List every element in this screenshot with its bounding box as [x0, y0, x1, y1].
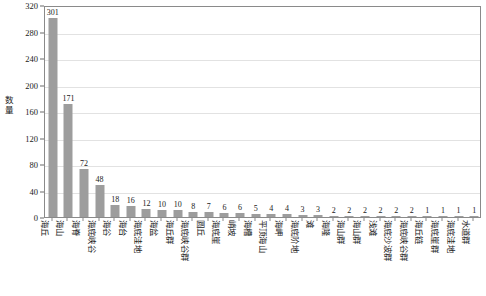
x-tick-mark: [441, 218, 442, 221]
x-tick-mark: [473, 218, 474, 221]
x-tick-label: 海底洼地: [133, 220, 142, 253]
x-tick-label: 平顶海山: [258, 220, 267, 253]
bar-value-label: 171: [62, 94, 74, 103]
x-tick-mark: [145, 218, 146, 221]
x-tick-mark: [114, 218, 115, 221]
bar-value-label: 2: [410, 206, 414, 215]
bar[interactable]: [470, 216, 479, 217]
bar-slot: 7: [201, 7, 217, 217]
y-tick-label: 40: [30, 187, 39, 197]
bar-slot: 2: [326, 7, 342, 217]
bar-slot: 10: [154, 7, 170, 217]
plot-area: 301171724818161210108766544332222221111: [44, 6, 481, 218]
bar-value-label: 12: [142, 199, 150, 208]
y-tick-label: 0: [34, 213, 38, 223]
x-tick-label: 海隆: [320, 220, 329, 236]
x-tick-mark: [192, 218, 193, 221]
bar-slot: 3: [295, 7, 311, 217]
bar[interactable]: [376, 216, 385, 217]
bar-slot: 48: [92, 7, 108, 217]
y-tick-label: 240: [25, 54, 38, 64]
bar[interactable]: [158, 210, 167, 217]
bar-value-label: 10: [158, 200, 166, 209]
bar-value-label: 3: [316, 205, 320, 214]
bar[interactable]: [204, 212, 213, 217]
y-tick-label: 320: [25, 1, 38, 11]
bar-value-label: 3: [301, 205, 305, 214]
bar-value-label: 1: [441, 206, 445, 215]
x-tick-label: 海岬: [273, 220, 282, 236]
x-tick-mark: [426, 218, 427, 221]
bar[interactable]: [407, 216, 416, 217]
y-tick-label: 80: [30, 160, 39, 170]
bar[interactable]: [329, 216, 338, 217]
bar[interactable]: [142, 209, 151, 217]
bar[interactable]: [236, 213, 245, 217]
x-tick-mark: [129, 218, 130, 221]
bar[interactable]: [314, 215, 323, 217]
bar-slot: 1: [435, 7, 451, 217]
x-tick-label: 峭坡: [226, 220, 235, 236]
bar-slot: 4: [264, 7, 280, 217]
x-tick-label: 海山群: [351, 220, 360, 245]
x-tick-mark: [83, 218, 84, 221]
bar[interactable]: [95, 185, 104, 217]
bar[interactable]: [64, 104, 73, 217]
bar-slot: 2: [342, 7, 358, 217]
bar[interactable]: [111, 205, 120, 217]
bar[interactable]: [251, 214, 260, 217]
bar-value-label: 7: [207, 202, 211, 211]
x-tick-label: 海槽: [242, 220, 251, 236]
bar[interactable]: [173, 210, 182, 217]
x-tick-mark: [395, 218, 396, 221]
x-tick-label: 滩: [304, 220, 313, 228]
bar[interactable]: [360, 216, 369, 217]
bar-value-label: 2: [363, 206, 367, 215]
bar-value-label: 6: [222, 203, 226, 212]
bar[interactable]: [282, 214, 291, 217]
bar[interactable]: [345, 216, 354, 217]
x-label-slot: 海底阶地: [294, 220, 310, 294]
x-tick-mark: [254, 218, 255, 221]
y-tick-label: 280: [25, 28, 38, 38]
x-tick-mark: [176, 218, 177, 221]
x-tick-label: 海底洼地: [445, 220, 454, 253]
bar[interactable]: [220, 213, 229, 217]
bar-value-label: 2: [347, 206, 351, 215]
x-tick-mark: [363, 218, 364, 221]
x-tick-label: 海底阶地: [289, 220, 298, 253]
bar-value-label: 10: [174, 200, 182, 209]
bar[interactable]: [454, 216, 463, 217]
x-tick-label: 海底峡谷: [86, 220, 95, 253]
bar[interactable]: [189, 212, 198, 217]
bar[interactable]: [80, 169, 89, 217]
bar[interactable]: [126, 206, 135, 217]
x-tick-label: 海丘: [39, 220, 48, 236]
x-tick-label: 海底沙波群: [382, 220, 391, 261]
bar-slot: 16: [123, 7, 139, 217]
bar[interactable]: [298, 215, 307, 217]
bar[interactable]: [267, 214, 276, 217]
bar-slot: 4: [279, 7, 295, 217]
bar-value-label: 1: [472, 206, 476, 215]
bar[interactable]: [423, 216, 432, 217]
bar-slot: 2: [404, 7, 420, 217]
bar-value-label: 1: [425, 206, 429, 215]
bar-slot: 8: [185, 7, 201, 217]
x-label-slot: 水道群: [465, 220, 481, 294]
x-tick-mark: [239, 218, 240, 221]
bar-value-label: 48: [96, 175, 104, 184]
bar-value-label: 2: [379, 206, 383, 215]
bar[interactable]: [48, 18, 57, 217]
bar[interactable]: [392, 216, 401, 217]
x-tick-mark: [332, 218, 333, 221]
x-tick-label: 海底崖: [211, 220, 220, 245]
x-tick-label: 海丘链: [414, 220, 423, 245]
bar-value-label: 1: [457, 206, 461, 215]
x-tick-mark: [270, 218, 271, 221]
bars-layer: 301171724818161210108766544332222221111: [45, 7, 480, 217]
bar-value-label: 5: [254, 204, 258, 213]
bar[interactable]: [438, 216, 447, 217]
bar-slot: 18: [107, 7, 123, 217]
bar-value-label: 18: [111, 195, 119, 204]
